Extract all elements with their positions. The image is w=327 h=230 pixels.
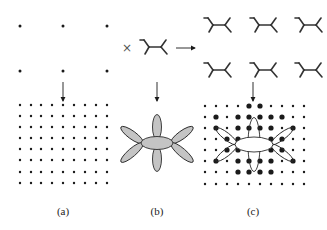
bonded-lattice-point bbox=[268, 114, 273, 119]
lattice-point bbox=[19, 104, 21, 106]
bonded-lattice-point bbox=[213, 114, 218, 119]
lattice-point bbox=[237, 183, 239, 185]
lattice-point bbox=[73, 115, 75, 117]
panel-b-basis-orbital: × bbox=[118, 40, 195, 172]
lattice-point bbox=[40, 159, 42, 161]
lattice-point bbox=[303, 116, 305, 118]
lattice-point bbox=[292, 138, 294, 140]
lattice-point bbox=[51, 104, 53, 106]
lattice-point bbox=[95, 115, 97, 117]
lattice-point bbox=[40, 126, 42, 128]
lattice-point bbox=[237, 105, 239, 107]
lattice-point bbox=[106, 182, 108, 184]
lattice-point bbox=[84, 171, 86, 173]
lattice-point bbox=[215, 105, 217, 107]
lattice-point bbox=[281, 171, 283, 173]
lattice-point bbox=[303, 149, 305, 151]
lattice-point bbox=[303, 138, 305, 140]
lattice-point bbox=[95, 148, 97, 150]
lattice-point bbox=[281, 105, 283, 107]
lattice-point bbox=[204, 160, 206, 162]
lattice-point bbox=[84, 182, 86, 184]
lattice-point bbox=[19, 25, 22, 28]
lattice-point bbox=[204, 149, 206, 151]
lattice-point bbox=[62, 159, 64, 161]
lattice-point bbox=[215, 171, 217, 173]
bonded-lattice-point bbox=[257, 103, 262, 108]
lattice-point bbox=[259, 183, 261, 185]
panel-a-point-lattice bbox=[19, 25, 109, 185]
lattice-point bbox=[281, 127, 283, 129]
lattice-point bbox=[84, 137, 86, 139]
lattice-point bbox=[95, 182, 97, 184]
lattice-point bbox=[270, 183, 272, 185]
bonded-lattice-point bbox=[268, 125, 273, 130]
lattice-point bbox=[73, 126, 75, 128]
orbital-center-outline bbox=[235, 137, 273, 152]
lattice-point bbox=[73, 104, 75, 106]
lattice-point bbox=[40, 104, 42, 106]
lattice-point bbox=[40, 182, 42, 184]
lattice-point bbox=[19, 70, 22, 73]
lattice-point bbox=[292, 116, 294, 118]
lattice-point bbox=[84, 115, 86, 117]
lattice-point bbox=[106, 115, 108, 117]
lattice-point bbox=[51, 126, 53, 128]
lattice-point bbox=[51, 137, 53, 139]
lattice-point bbox=[84, 159, 86, 161]
bonded-lattice-point bbox=[235, 125, 240, 130]
lattice-point bbox=[215, 183, 217, 185]
lattice-point bbox=[73, 171, 75, 173]
lattice-point bbox=[106, 148, 108, 150]
bonded-lattice-point bbox=[246, 103, 251, 108]
lattice-point bbox=[204, 105, 206, 107]
lattice-point bbox=[226, 116, 228, 118]
lattice-point bbox=[106, 70, 109, 73]
lattice-point bbox=[95, 137, 97, 139]
lattice-point bbox=[62, 25, 65, 28]
lattice-point bbox=[248, 183, 250, 185]
lattice-point bbox=[73, 148, 75, 150]
molecule-icon bbox=[295, 63, 322, 77]
bonded-lattice-point bbox=[257, 114, 262, 119]
lattice-point bbox=[270, 105, 272, 107]
lattice-point bbox=[303, 160, 305, 162]
lattice-point bbox=[84, 126, 86, 128]
lattice-point bbox=[73, 159, 75, 161]
lattice-point bbox=[62, 70, 65, 73]
lattice-point bbox=[62, 148, 64, 150]
bonded-lattice-point bbox=[235, 114, 240, 119]
molecule-icon bbox=[140, 40, 167, 54]
lattice-point bbox=[292, 171, 294, 173]
lattice-point bbox=[40, 171, 42, 173]
molecule-icon bbox=[250, 18, 277, 32]
lattice-point bbox=[19, 182, 21, 184]
lattice-point bbox=[30, 148, 32, 150]
lattice-point bbox=[95, 159, 97, 161]
lattice-point bbox=[62, 126, 64, 128]
lattice-point bbox=[95, 104, 97, 106]
lattice-point bbox=[30, 126, 32, 128]
times-icon: × bbox=[122, 41, 132, 55]
lattice-point bbox=[303, 171, 305, 173]
bonded-lattice-point bbox=[235, 158, 240, 163]
panel-b-label: (b) bbox=[151, 205, 164, 217]
lattice-point bbox=[215, 149, 217, 151]
panel-c-label: (c) bbox=[247, 205, 259, 217]
lattice-point bbox=[73, 137, 75, 139]
lattice-point bbox=[40, 148, 42, 150]
lattice-point bbox=[106, 104, 108, 106]
lattice-point bbox=[30, 137, 32, 139]
lattice-point bbox=[30, 182, 32, 184]
molecule-icon bbox=[250, 63, 277, 77]
panel-a-label: (a) bbox=[57, 205, 69, 217]
lattice-point bbox=[303, 127, 305, 129]
lattice-point bbox=[292, 149, 294, 151]
lattice-point bbox=[95, 126, 97, 128]
lattice-point bbox=[19, 148, 21, 150]
lattice-point bbox=[51, 171, 53, 173]
lattice-point bbox=[303, 183, 305, 185]
lattice-point bbox=[281, 160, 283, 162]
lattice-point bbox=[292, 105, 294, 107]
lattice-point bbox=[106, 126, 108, 128]
